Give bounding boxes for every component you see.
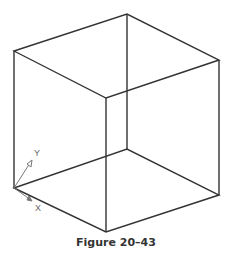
figure-caption: Figure 20–43 [0,236,232,249]
ucs-y-axis [14,163,30,188]
cube-wireframe [14,14,219,232]
ucs-y-label: Y [34,148,40,158]
cube-top-face [14,14,219,98]
cube-bottom-face [14,149,219,232]
ucs-x-label: X [35,203,41,213]
cube-diagram: Y X [0,0,232,235]
